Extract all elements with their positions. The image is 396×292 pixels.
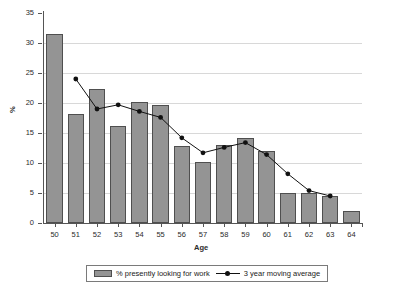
y-axis-tick — [38, 223, 42, 224]
x-axis-tick-label: 60 — [256, 231, 277, 239]
y-axis-tick-label: 10 — [26, 159, 34, 167]
x-axis-tick — [97, 223, 98, 227]
x-axis-tick — [362, 223, 363, 227]
y-axis-tick — [38, 133, 42, 134]
data-point-marker — [73, 77, 78, 82]
y-axis-tick-label: 0 — [30, 219, 34, 227]
legend-bar-label: % presently looking for work — [116, 270, 210, 278]
x-axis-tick-label: 56 — [171, 231, 192, 239]
x-axis-tick — [224, 223, 225, 227]
data-point-marker — [307, 188, 312, 193]
data-point-marker — [243, 140, 248, 145]
x-axis-tick — [203, 223, 204, 227]
x-axis-tick — [139, 223, 140, 227]
data-point-marker — [328, 194, 333, 199]
data-point-marker — [158, 115, 163, 120]
y-axis-tick — [38, 193, 42, 194]
x-axis-tick-label: 59 — [235, 231, 256, 239]
y-axis-tick — [38, 13, 42, 14]
data-point-marker — [179, 135, 184, 140]
x-axis-tick — [267, 223, 268, 227]
y-axis: 05101520253035 — [0, 0, 42, 292]
moving-average-line-series — [44, 13, 362, 223]
x-axis-tick-label: 53 — [108, 231, 129, 239]
x-axis-tick — [288, 223, 289, 227]
x-axis-tick-label: 50 — [44, 231, 65, 239]
x-axis-tick-label: 57 — [192, 231, 213, 239]
x-axis-tick-label: 51 — [65, 231, 86, 239]
legend-line-label: 3 year moving average — [244, 270, 320, 278]
legend-entry-line: 3 year moving average — [216, 270, 320, 278]
legend-line-marker-icon — [216, 270, 240, 278]
y-axis-tick — [38, 163, 42, 164]
x-axis-title: Age — [194, 243, 208, 252]
y-axis-tick-label: 30 — [26, 39, 34, 47]
x-axis-tick — [76, 223, 77, 227]
y-axis-tick — [38, 43, 42, 44]
x-axis-tick — [55, 223, 56, 227]
y-axis-tick — [38, 73, 42, 74]
data-point-marker — [285, 171, 290, 176]
x-axis-tick-label: 61 — [277, 231, 298, 239]
x-axis-tick-label: 54 — [129, 231, 150, 239]
x-axis-tick-label: 55 — [150, 231, 171, 239]
x-axis-tick — [309, 223, 310, 227]
x-axis-tick-label: 58 — [214, 231, 235, 239]
data-point-marker — [95, 107, 100, 112]
y-axis-tick-label: 25 — [26, 69, 34, 77]
data-point-marker — [222, 145, 227, 150]
data-point-marker — [201, 150, 206, 155]
chart-legend: % presently looking for work 3 year movi… — [86, 265, 328, 282]
x-axis-tick — [351, 223, 352, 227]
x-axis-tick-label: 62 — [298, 231, 319, 239]
x-axis-tick — [161, 223, 162, 227]
data-point-marker — [264, 152, 269, 157]
legend-entry-bar: % presently looking for work — [94, 270, 210, 278]
data-point-marker — [137, 109, 142, 114]
moving-average-polyline — [76, 79, 330, 196]
x-axis-tick — [182, 223, 183, 227]
y-axis-tick — [38, 103, 42, 104]
y-axis-title: % — [8, 106, 17, 113]
x-axis-tick-label: 64 — [341, 231, 362, 239]
y-axis-tick-label: 15 — [26, 129, 34, 137]
x-axis-tick — [330, 223, 331, 227]
x-axis-tick-label: 52 — [86, 231, 107, 239]
x-axis-tick-label: 63 — [320, 231, 341, 239]
y-axis-tick-label: 5 — [30, 189, 34, 197]
legend-bar-swatch-icon — [94, 270, 112, 277]
x-axis-tick — [118, 223, 119, 227]
y-axis-tick-label: 35 — [26, 9, 34, 17]
data-point-marker — [116, 102, 121, 107]
x-axis-tick — [245, 223, 246, 227]
chart-figure: 05101520253035 % 50515253545556575859606… — [0, 0, 396, 292]
y-axis-tick-label: 20 — [26, 99, 34, 107]
